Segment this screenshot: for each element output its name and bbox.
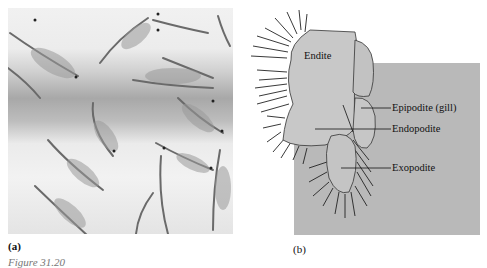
epipodite-label: Epipodite (gill)	[392, 102, 456, 113]
panel-b-label: (b)	[293, 243, 306, 255]
panel-a-label: (a)	[8, 240, 21, 252]
shrimp-illustration	[8, 8, 233, 234]
phyllopod-limb-illustration	[245, 0, 487, 264]
endite-label: Endite	[304, 50, 331, 61]
endopodite-label: Endopodite	[392, 123, 440, 134]
limb-diagram: Endite Epipodite (gill) Endopodite Exopo…	[245, 0, 487, 264]
exopodite-label: Exopodite	[392, 162, 435, 173]
brine-shrimp-photo	[8, 8, 233, 234]
figure-caption: Figure 31.20	[8, 256, 65, 268]
